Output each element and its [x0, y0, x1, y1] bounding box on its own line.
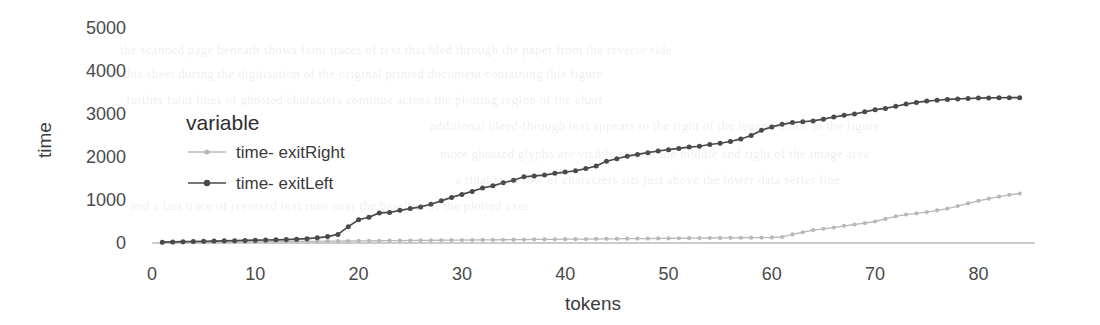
data-point — [904, 102, 909, 107]
data-point — [914, 211, 918, 215]
chart-container: the scanned page beneath shows faint tra… — [0, 0, 1100, 325]
data-point — [552, 171, 557, 176]
data-point — [738, 136, 743, 141]
data-point — [883, 106, 888, 111]
data-point — [956, 204, 960, 208]
data-point — [821, 117, 826, 122]
data-point — [511, 238, 515, 242]
y-tick-label: 0 — [116, 233, 126, 253]
series-1 — [160, 95, 1022, 244]
data-point — [336, 239, 340, 243]
data-point — [594, 164, 599, 169]
data-point — [800, 119, 805, 124]
data-point — [180, 239, 185, 244]
data-point — [904, 213, 908, 217]
data-point — [1017, 95, 1022, 100]
data-point — [645, 150, 650, 155]
data-point — [439, 198, 444, 203]
data-point — [501, 238, 505, 242]
data-point — [759, 235, 763, 239]
data-point — [242, 238, 247, 243]
data-point — [894, 214, 898, 218]
data-point — [480, 238, 484, 242]
data-point — [873, 219, 877, 223]
data-point — [862, 109, 867, 114]
data-point — [232, 238, 237, 243]
x-tick-label: 80 — [968, 264, 988, 284]
legend-entry-0[interactable]: time- exitRight — [188, 143, 345, 162]
data-point — [460, 238, 464, 242]
x-tick-label: 0 — [147, 264, 157, 284]
data-point — [222, 238, 227, 243]
data-point — [459, 192, 464, 197]
data-point — [966, 201, 970, 205]
data-point — [615, 237, 619, 241]
data-point — [408, 238, 412, 242]
data-point — [749, 133, 754, 138]
x-axis-title: tokens — [565, 293, 621, 314]
data-point — [935, 208, 939, 212]
data-point — [687, 236, 691, 240]
data-point — [253, 238, 258, 243]
data-point — [728, 236, 732, 240]
data-point — [739, 236, 743, 240]
data-series-layer — [160, 95, 1022, 245]
data-point — [367, 239, 371, 243]
x-tick-label: 60 — [762, 264, 782, 284]
data-point — [1007, 193, 1011, 197]
data-point — [490, 183, 495, 188]
data-point — [346, 224, 351, 229]
data-point — [1007, 95, 1012, 100]
data-point — [614, 156, 619, 161]
legend-entry-1[interactable]: time- exitLeft — [188, 174, 334, 193]
x-tick-label: 70 — [865, 264, 885, 284]
data-point — [573, 237, 577, 241]
data-point — [263, 237, 268, 242]
data-point — [666, 147, 671, 152]
data-point — [201, 239, 206, 244]
y-tick-label: 2000 — [86, 147, 126, 167]
data-point — [873, 107, 878, 112]
data-point — [604, 237, 608, 241]
data-point — [697, 236, 701, 240]
data-point — [315, 235, 320, 240]
data-point — [749, 236, 753, 240]
data-point — [790, 120, 795, 125]
data-point — [501, 180, 506, 185]
legend-marker-swatch — [204, 149, 209, 154]
data-point — [573, 168, 578, 173]
data-point — [335, 232, 340, 237]
data-point — [770, 235, 774, 239]
data-point — [439, 238, 443, 242]
legend-entry-label: time- exitLeft — [236, 174, 334, 193]
data-point — [831, 115, 836, 120]
data-point — [811, 228, 815, 232]
data-point — [356, 217, 361, 222]
data-point — [718, 141, 723, 146]
data-point — [821, 227, 825, 231]
data-point — [987, 197, 991, 201]
data-point — [428, 202, 433, 207]
data-point — [852, 222, 856, 226]
data-point — [718, 236, 722, 240]
data-point — [646, 236, 650, 240]
data-point — [852, 112, 857, 117]
data-point — [842, 113, 847, 118]
series-line — [162, 98, 1019, 242]
data-point — [387, 210, 392, 215]
data-point — [656, 236, 660, 240]
data-point — [511, 178, 516, 183]
data-point — [707, 142, 712, 147]
data-point — [304, 236, 309, 241]
data-point — [635, 237, 639, 241]
x-tick-label: 30 — [452, 264, 472, 284]
data-point — [966, 96, 971, 101]
data-point — [925, 210, 929, 214]
data-point — [584, 237, 588, 241]
data-point — [697, 144, 702, 149]
data-point — [542, 173, 547, 178]
data-point — [832, 225, 836, 229]
y-axis-title: time — [34, 122, 55, 158]
data-point — [986, 95, 991, 100]
data-point — [708, 236, 712, 240]
